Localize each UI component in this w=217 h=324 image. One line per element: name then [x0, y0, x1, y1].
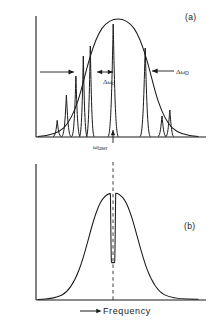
panel-a-label: (a) [185, 12, 196, 22]
frequency-axis-title: Frequency [103, 306, 151, 316]
laser-frequency-label: ωlaser [93, 143, 107, 151]
doppler-width-label: ΔωD [176, 68, 189, 76]
doppler-width-subscript: D [185, 70, 189, 76]
mode-spacing-label: Δωc [103, 78, 114, 86]
panel-b-label: (b) [184, 221, 195, 231]
laser-frequency-subscript: laser [98, 145, 108, 151]
mode-spacing-subscript: c [112, 80, 114, 86]
doppler-width-symbol: Δω [176, 68, 185, 76]
figure-background [0, 0, 217, 324]
mode-spacing-symbol: Δω [103, 78, 112, 86]
laser-gain-lamb-dip-figure [0, 0, 217, 324]
